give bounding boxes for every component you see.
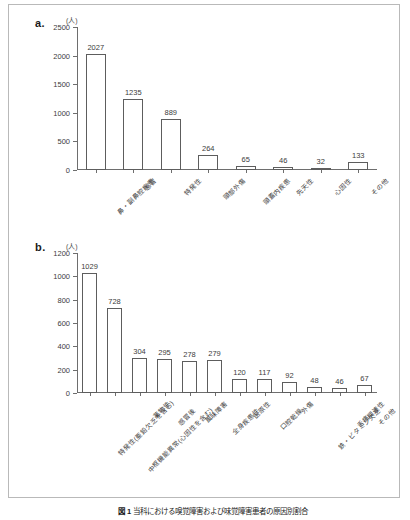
y-tick-b bbox=[73, 393, 77, 394]
y-tick-label-b-6: 1200 bbox=[30, 249, 70, 258]
x-tick-b-0 bbox=[90, 393, 91, 396]
x-tick-b-4 bbox=[190, 393, 191, 396]
y-tick-label-a-0: 0 bbox=[30, 166, 70, 175]
bar-value-b-4: 278 bbox=[183, 350, 196, 359]
bar-value-b-7: 117 bbox=[259, 368, 271, 377]
y-tick-a bbox=[73, 141, 77, 142]
bar-a-3 bbox=[198, 155, 218, 170]
x-category-label-b-6: 医原性 bbox=[250, 398, 272, 420]
y-tick-label-b-0: 0 bbox=[30, 389, 70, 398]
y-tick-b bbox=[73, 323, 77, 324]
bar-value-a-1: 1235 bbox=[125, 88, 142, 97]
y-tick-label-a-1: 500 bbox=[30, 137, 70, 146]
y-tick-b bbox=[73, 370, 77, 371]
bar-value-b-0: 1029 bbox=[81, 262, 98, 271]
bar-value-b-8: 92 bbox=[285, 371, 293, 380]
chart-panel-a: a. (人) 050010001500200025002027鼻・副鼻腔疾患12… bbox=[9, 5, 399, 237]
bar-b-1 bbox=[107, 308, 122, 393]
x-tick-a-4 bbox=[246, 170, 247, 173]
caption-number: 図 1 bbox=[118, 507, 131, 516]
x-tick-a-1 bbox=[133, 170, 134, 173]
bar-value-a-2: 889 bbox=[164, 108, 177, 117]
x-tick-b-5 bbox=[215, 393, 216, 396]
x-category-label-a-6: 心因性 bbox=[331, 175, 353, 197]
bar-value-b-1: 728 bbox=[108, 297, 121, 306]
figure-frame: a. (人) 050010001500200025002027鼻・副鼻腔疾患12… bbox=[8, 4, 400, 498]
x-tick-b-3 bbox=[165, 393, 166, 396]
bar-b-11 bbox=[357, 385, 372, 393]
bar-value-b-9: 48 bbox=[310, 376, 318, 385]
y-tick-a bbox=[73, 170, 77, 171]
y-tick-label-a-4: 2000 bbox=[30, 51, 70, 60]
bar-value-b-5: 279 bbox=[208, 349, 221, 358]
bar-value-a-7: 133 bbox=[352, 151, 365, 160]
y-tick-label-b-1: 200 bbox=[30, 365, 70, 374]
y-tick-b bbox=[73, 346, 77, 347]
y-tick-label-b-5: 1000 bbox=[30, 272, 70, 281]
y-tick-a bbox=[73, 113, 77, 114]
x-tick-b-2 bbox=[140, 393, 141, 396]
x-tick-b-8 bbox=[290, 393, 291, 396]
x-tick-b-7 bbox=[265, 393, 266, 396]
caption-text: 当科における嗅覚障害および味覚障害患者の原因別割合 bbox=[133, 507, 308, 516]
y-tick-a bbox=[73, 84, 77, 85]
y-tick-b bbox=[73, 276, 77, 277]
y-tick-label-a-3: 1500 bbox=[30, 80, 70, 89]
plot-area-a: 050010001500200025002027鼻・副鼻腔疾患1235感冒889… bbox=[77, 27, 377, 170]
y-tick-a bbox=[73, 27, 77, 28]
x-category-label-a-2: 特発性 bbox=[181, 175, 203, 197]
bar-value-b-11: 67 bbox=[360, 374, 368, 383]
x-category-label-a-4: 頭蓋内疾患 bbox=[260, 175, 292, 207]
x-axis-a bbox=[77, 169, 377, 170]
bar-b-7 bbox=[257, 379, 272, 393]
bar-a-7 bbox=[348, 162, 368, 170]
bar-value-a-0: 2027 bbox=[87, 43, 104, 52]
x-tick-b-9 bbox=[315, 393, 316, 396]
x-tick-a-7 bbox=[358, 170, 359, 173]
x-tick-a-3 bbox=[208, 170, 209, 173]
bar-value-b-6: 120 bbox=[233, 368, 246, 377]
bar-value-b-2: 304 bbox=[133, 347, 146, 356]
x-category-label-a-5: 先天性 bbox=[293, 175, 315, 197]
x-tick-b-10 bbox=[340, 393, 341, 396]
bar-b-5 bbox=[207, 360, 222, 393]
x-tick-a-6 bbox=[321, 170, 322, 173]
bar-value-b-10: 46 bbox=[335, 377, 343, 386]
x-tick-a-5 bbox=[283, 170, 284, 173]
bar-a-1 bbox=[123, 99, 143, 170]
chart-panel-b: b. (人) 0200400600800100012001029特発性(亜鉛欠乏… bbox=[9, 237, 399, 499]
bar-b-2 bbox=[132, 358, 147, 393]
bar-b-8 bbox=[282, 382, 297, 393]
y-axis-b bbox=[77, 253, 78, 393]
plot-area-b: 0200400600800100012001029特発性(亜鉛欠乏を含む)728… bbox=[77, 253, 377, 393]
x-tick-b-1 bbox=[115, 393, 116, 396]
bar-value-a-4: 65 bbox=[242, 155, 250, 164]
bar-value-a-3: 264 bbox=[202, 144, 215, 153]
y-tick-label-a-2: 1000 bbox=[30, 108, 70, 117]
y-tick-label-b-4: 800 bbox=[30, 295, 70, 304]
bar-b-0 bbox=[82, 273, 97, 393]
x-category-label-a-7: その他 bbox=[368, 175, 390, 197]
x-tick-a-2 bbox=[171, 170, 172, 173]
bar-value-b-3: 295 bbox=[158, 348, 171, 357]
y-tick-b bbox=[73, 300, 77, 301]
y-tick-label-a-5: 2500 bbox=[30, 23, 70, 32]
y-tick-label-b-3: 600 bbox=[30, 319, 70, 328]
bar-a-2 bbox=[161, 119, 181, 170]
x-tick-a-0 bbox=[96, 170, 97, 173]
x-tick-b-6 bbox=[240, 393, 241, 396]
x-category-label-a-3: 頭部外傷 bbox=[220, 175, 247, 202]
bar-value-a-6: 32 bbox=[317, 157, 325, 166]
bar-b-4 bbox=[182, 361, 197, 393]
bar-b-3 bbox=[157, 359, 172, 393]
figure-caption: 図 1 当科における嗅覚障害および味覚障害患者の原因別割合 bbox=[17, 505, 409, 516]
y-tick-a bbox=[73, 56, 77, 57]
y-axis-a bbox=[77, 27, 78, 170]
y-tick-label-b-2: 400 bbox=[30, 342, 70, 351]
y-tick-b bbox=[73, 253, 77, 254]
bar-b-6 bbox=[232, 379, 247, 393]
bar-a-0 bbox=[86, 54, 106, 170]
bar-value-a-5: 46 bbox=[279, 156, 287, 165]
x-tick-b-11 bbox=[365, 393, 366, 396]
